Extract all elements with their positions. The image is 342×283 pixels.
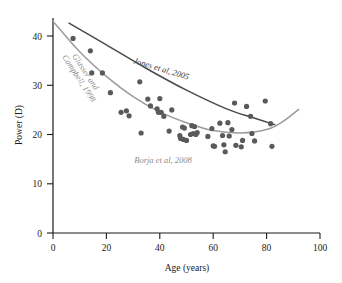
scatter-point (118, 110, 123, 115)
scatter-point (227, 133, 232, 138)
scatter-point (88, 48, 93, 53)
scatter-plot: 0 10 20 30 40 0 20 40 60 80 100 Age (yea… (0, 0, 342, 283)
y-axis-title: Power (D) (14, 105, 25, 145)
y-tick-label-40: 40 (33, 32, 43, 42)
y-tick-label-10: 10 (33, 179, 43, 189)
scatter-point (124, 108, 129, 113)
scatter-point (269, 144, 274, 149)
scatter-point (182, 126, 187, 131)
annotation-borja: Borja et al, 2008 (134, 155, 192, 165)
x-tick-label-100: 100 (313, 243, 328, 253)
scatter-point (137, 79, 142, 84)
scatter-point (184, 138, 189, 143)
scatter-point (249, 131, 254, 136)
scatter-point (100, 70, 105, 75)
x-tick-label-0: 0 (51, 243, 56, 253)
x-axis-title: Age (years) (165, 263, 210, 274)
scatter-point (252, 138, 257, 143)
x-tick-label-20: 20 (102, 243, 112, 253)
scatter-point (161, 114, 166, 119)
scatter-point (248, 114, 253, 119)
y-tick-label-0: 0 (37, 229, 42, 239)
scatter-point (108, 90, 113, 95)
scatter-point (70, 36, 75, 41)
scatter-point (240, 138, 245, 143)
y-tick-label-30: 30 (33, 81, 43, 91)
scatter-point (126, 113, 131, 118)
chart-figure: 0 10 20 30 40 0 20 40 60 80 100 Age (yea… (0, 0, 342, 283)
scatter-point (263, 98, 268, 103)
scatter-point (223, 149, 228, 154)
scatter-point (221, 142, 226, 147)
y-axis-ticks: 0 10 20 30 40 (33, 32, 54, 239)
scatter-point (205, 134, 210, 139)
scatter-point (212, 144, 217, 149)
x-tick-label-80: 80 (262, 243, 272, 253)
scatter-point (145, 96, 150, 101)
scatter-point (195, 130, 200, 135)
x-tick-label-40: 40 (155, 243, 165, 253)
scatter-point (157, 96, 162, 101)
scatter-point (139, 130, 144, 135)
scatter-point (239, 144, 244, 149)
scatter-point (244, 104, 249, 109)
scatter-points-layer (70, 36, 274, 154)
y-tick-label-20: 20 (33, 130, 43, 140)
scatter-point (169, 107, 174, 112)
scatter-point (229, 127, 234, 132)
scatter-point (232, 100, 237, 105)
scatter-point (167, 128, 172, 133)
x-axis-ticks: 0 20 40 60 80 100 (51, 233, 328, 253)
scatter-point (225, 120, 230, 125)
scatter-point (192, 124, 197, 129)
scatter-point (268, 121, 273, 126)
scatter-point (209, 126, 214, 131)
scatter-point (220, 133, 225, 138)
scatter-point (233, 143, 238, 148)
axis-lines (53, 18, 320, 233)
x-tick-label-60: 60 (208, 243, 218, 253)
scatter-point (217, 121, 222, 126)
annotation-jones: Jones et al, 2005 (132, 55, 190, 81)
scatter-point (148, 103, 153, 108)
